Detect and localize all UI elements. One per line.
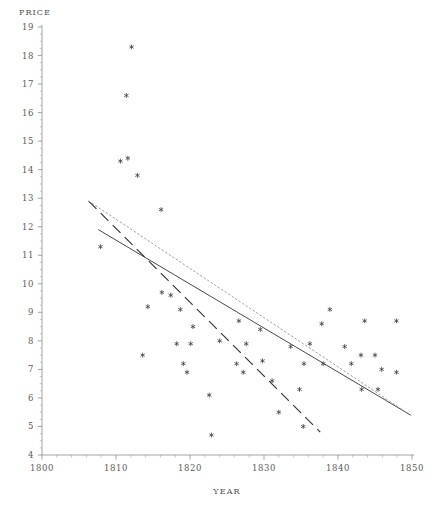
data-point — [207, 393, 211, 398]
data-point — [328, 307, 332, 312]
data-point — [126, 156, 130, 161]
data-point — [297, 387, 301, 392]
y-tick-label: 14 — [22, 165, 34, 175]
data-point — [237, 318, 241, 323]
data-point — [360, 387, 364, 392]
y-tick-label: 19 — [22, 22, 34, 32]
y-tick-label: 9 — [28, 307, 34, 317]
x-tick-label: 1830 — [252, 463, 276, 473]
data-point — [376, 387, 380, 392]
data-point — [118, 159, 122, 164]
data-point — [140, 353, 144, 358]
y-tick-label: 6 — [28, 393, 34, 403]
data-point — [146, 304, 150, 309]
y-tick-label: 4 — [28, 450, 34, 460]
data-points — [98, 44, 398, 437]
data-point — [160, 290, 164, 295]
regression-line-dashed — [89, 201, 321, 432]
data-point — [277, 410, 281, 415]
y-tick-label: 5 — [28, 421, 34, 431]
x-tick-label: 1810 — [104, 463, 128, 473]
y-axis: 45678910111213141516171819 — [22, 22, 42, 460]
data-point — [181, 361, 185, 366]
regression-lines — [89, 201, 411, 432]
data-point — [189, 341, 193, 346]
data-point — [175, 341, 179, 346]
data-point — [159, 207, 163, 212]
data-point — [260, 358, 264, 363]
data-point — [169, 293, 173, 298]
y-tick-label: 18 — [22, 51, 34, 61]
x-axis: 180018101820183018401850 — [30, 455, 424, 473]
data-point — [178, 307, 182, 312]
data-point — [241, 370, 245, 375]
regression-line-solid — [98, 230, 410, 415]
data-point — [209, 433, 213, 438]
data-point — [373, 353, 377, 358]
data-point — [394, 318, 398, 323]
data-point — [308, 341, 312, 346]
data-point — [135, 173, 139, 178]
data-point — [342, 344, 346, 349]
scatter-plot-figure: 45678910111213141516171819 1800181018201… — [0, 0, 437, 512]
data-point — [185, 370, 189, 375]
y-tick-label: 16 — [22, 108, 34, 118]
data-point — [191, 324, 195, 329]
y-tick-label: 15 — [22, 136, 34, 146]
data-point — [244, 341, 248, 346]
x-axis-title: YEAR — [212, 487, 240, 496]
data-point — [349, 361, 353, 366]
data-point — [98, 244, 102, 249]
x-tick-label: 1840 — [326, 463, 350, 473]
y-tick-label: 8 — [28, 336, 34, 346]
y-tick-label: 12 — [22, 222, 34, 232]
x-tick-label: 1800 — [30, 463, 54, 473]
data-point — [362, 318, 366, 323]
data-point — [129, 44, 133, 49]
data-point — [320, 321, 324, 326]
data-point — [124, 93, 128, 98]
plot-canvas: 45678910111213141516171819 1800181018201… — [0, 0, 437, 512]
y-tick-label: 11 — [22, 250, 34, 260]
data-point — [302, 361, 306, 366]
y-axis-title: PRICE — [19, 8, 51, 17]
data-point — [394, 370, 398, 375]
y-tick-label: 13 — [22, 193, 34, 203]
data-point — [379, 367, 383, 372]
y-tick-label: 17 — [22, 79, 34, 89]
y-tick-label: 7 — [28, 364, 34, 374]
data-point — [258, 327, 262, 332]
x-tick-label: 1820 — [178, 463, 202, 473]
regression-line-dotted — [89, 201, 411, 415]
y-tick-label: 10 — [22, 279, 34, 289]
data-point — [234, 361, 238, 366]
data-point — [301, 424, 305, 429]
data-point — [359, 353, 363, 358]
data-point — [217, 338, 221, 343]
x-tick-label: 1850 — [400, 463, 424, 473]
